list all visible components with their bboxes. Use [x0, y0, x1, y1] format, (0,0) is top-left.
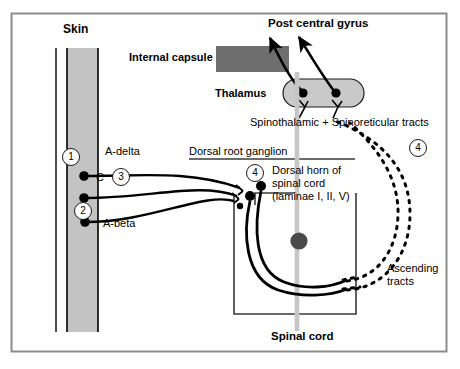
post-central-gyrus-label: Post central gyrus [268, 17, 368, 30]
a-beta-label: A-beta [103, 217, 135, 229]
dorsal-horn-cell-medial [245, 191, 255, 201]
internal-capsule-label: Internal capsule [129, 51, 213, 63]
spinothalamic-spinoreticular-label: Spinothalamic + Spinoreticular tracts [250, 116, 429, 128]
skin-label: Skin [63, 23, 88, 36]
spinal-cord-label: Spinal cord [271, 330, 334, 343]
thalamus-label: Thalamus [215, 87, 266, 99]
marker-3: 3 [112, 168, 130, 186]
central-canal-dot [290, 232, 307, 249]
ascending-tracts-label-line1: Ascending [387, 262, 438, 274]
marker-4-right: 4 [409, 139, 427, 157]
dorsal-horn-label-line3: (laminae I, II, V) [272, 190, 350, 202]
c-fiber-label: C [96, 171, 104, 183]
marker-1: 1 [62, 148, 80, 166]
a-delta-receptor-dot [79, 171, 89, 181]
ascending-tracts-label-line2: tracts [387, 275, 414, 287]
pain-pathway-diagram: Skin Internal capsule Post central gyrus… [0, 0, 460, 369]
a-beta-terminal-dot [237, 203, 243, 209]
marker-4-dorsal-horn: 4 [246, 164, 264, 182]
marker-2: 2 [74, 202, 92, 220]
thalamic-relay-dot-lateral [331, 88, 340, 97]
internal-capsule-block [216, 46, 289, 72]
dorsal-horn-label-line1: Dorsal horn of [272, 164, 341, 176]
dorsal-horn-label-line2: spinal cord [272, 177, 325, 189]
thalamic-relay-dot-medial [298, 88, 307, 97]
a-delta-label: A-delta [105, 145, 140, 157]
dorsal-horn-cell-lateral [256, 181, 266, 191]
dorsal-root-ganglion-label: Dorsal root ganglion [189, 145, 287, 157]
diagram-canvas [0, 0, 460, 369]
